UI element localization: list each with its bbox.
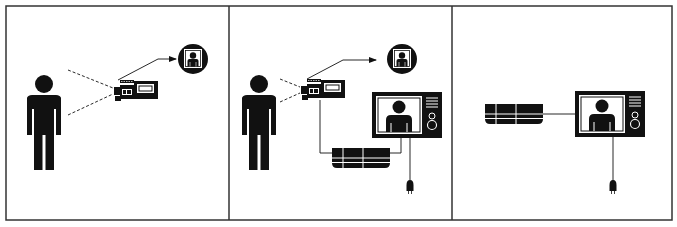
tv-icon [372, 92, 442, 138]
vcr-icon [332, 148, 390, 168]
picture-circle-icon [387, 44, 417, 74]
view-lines [280, 79, 300, 102]
camcorder-icon [301, 79, 345, 100]
panel-3 [485, 91, 645, 194]
person-icon [242, 75, 276, 170]
view-lines [68, 70, 113, 115]
plug-icon [610, 180, 617, 194]
plug-icon [407, 180, 414, 194]
panel-1 [27, 44, 208, 170]
panel-frame [6, 6, 672, 220]
diagram-canvas [0, 0, 677, 227]
tv-icon [575, 91, 645, 137]
person-icon [27, 75, 61, 170]
vcr-icon [485, 104, 543, 124]
arrow-icon [307, 60, 376, 79]
arrow-icon [118, 59, 176, 80]
camcorder-icon [114, 80, 158, 101]
panel-2 [242, 44, 442, 194]
picture-circle-icon [178, 44, 208, 74]
